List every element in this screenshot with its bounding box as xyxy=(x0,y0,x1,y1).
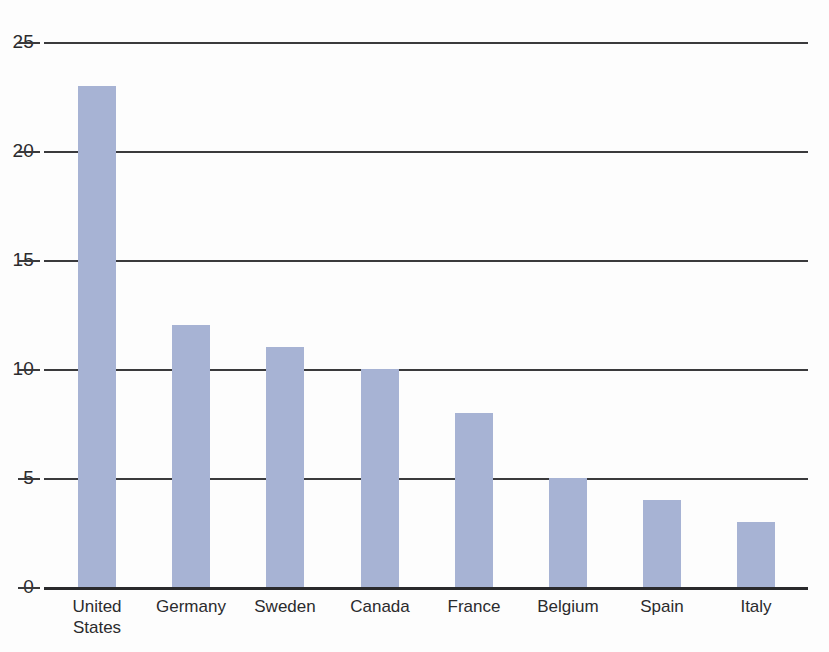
bar-france xyxy=(455,413,493,587)
gridline-0-baseline xyxy=(44,587,808,590)
x-tick-label-italy: Italy xyxy=(691,596,821,617)
gridline-5 xyxy=(44,478,808,480)
gridline-20 xyxy=(44,151,808,153)
bar-sweden xyxy=(266,347,304,587)
bar-italy xyxy=(737,522,775,587)
gridline-10 xyxy=(44,369,808,371)
bar-germany xyxy=(172,325,210,587)
tick-mark-15 xyxy=(18,260,40,262)
plot-area xyxy=(44,42,808,587)
tick-mark-0 xyxy=(18,587,40,589)
bar-united-states xyxy=(78,86,116,587)
gridline-25 xyxy=(44,42,808,44)
tick-mark-20 xyxy=(18,151,40,153)
tick-mark-25 xyxy=(18,42,40,44)
tick-mark-10 xyxy=(18,369,40,371)
tick-mark-5 xyxy=(18,478,40,480)
gridline-15 xyxy=(44,260,808,262)
bar-belgium xyxy=(549,478,587,587)
bar-spain xyxy=(643,500,681,587)
bar-chart: 25 20 15 10 5 0 United xyxy=(0,0,829,652)
bar-canada xyxy=(361,369,399,587)
